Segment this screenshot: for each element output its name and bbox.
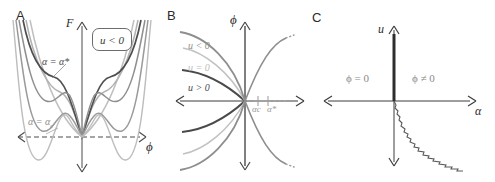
- panel-b-tick-label-alpha-star: α*: [267, 104, 276, 114]
- panel-a-plot: [0, 0, 165, 182]
- panel-c-x-axis-label: α: [475, 104, 481, 119]
- panel-a-annotation-alpha-c-text: α = α: [28, 116, 50, 127]
- panel-a-annotation-alpha-c-sub: c: [50, 122, 53, 130]
- panel-b-tick-label-alpha-star-text: α*: [267, 104, 276, 114]
- panel-a: A: [0, 0, 165, 182]
- panel-c: C u α: [300, 0, 495, 182]
- panel-b-label-u-zero: u = 0: [188, 62, 210, 73]
- panel-a-annotation-alpha-c: α = αc: [28, 116, 53, 130]
- panel-b-label-u-positive: u > 0: [188, 82, 210, 93]
- panel-c-region-label-right: ϕ ≠ 0: [412, 72, 435, 84]
- panel-b-y-axis-label: ϕ: [230, 12, 237, 28]
- panel-b: B: [150, 0, 310, 182]
- panel-a-y-axis: [77, 22, 87, 172]
- panel-b-curve-right-upper: [245, 35, 294, 101]
- panel-a-y-axis-label: F: [66, 16, 73, 31]
- panel-a-annotation-alpha-star-text: α = α*: [42, 56, 69, 67]
- panel-b-tick-label-alpha-c-text: αc: [252, 104, 261, 114]
- panel-c-plot: [300, 0, 495, 182]
- panel-c-y-axis-label: u: [378, 22, 384, 37]
- figure-canvas: A: [0, 0, 495, 182]
- panel-a-condition-box: u < 0: [92, 28, 132, 51]
- panel-c-region-label-left: ϕ = 0: [346, 72, 369, 84]
- panel-c-x-axis: [324, 96, 476, 106]
- panel-c-boundary-first-order: [394, 101, 463, 171]
- panel-a-annotation-alpha-star: α = α*: [42, 56, 69, 67]
- panel-b-tick-label-alpha-c: αc: [252, 104, 261, 114]
- panel-a-condition-text: u < 0: [100, 34, 124, 46]
- panel-b-label-u-negative: u < 0: [188, 40, 210, 51]
